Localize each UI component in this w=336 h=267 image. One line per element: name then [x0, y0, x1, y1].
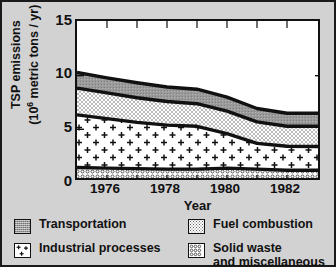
legend-item-transportation: Transportation [14, 218, 127, 234]
y-axis-title: TSP emissions (106 metric tons / yr) [9, 0, 42, 145]
legend-item-solid-waste: Solid wasteand miscellaneous [188, 242, 325, 267]
x-tick-label-1980: 1980 [202, 182, 248, 196]
legend-item-industrial-processes: Industrial processes [14, 242, 161, 258]
stacked-area-svg [75, 19, 320, 180]
x-axis-title: Year [75, 198, 320, 213]
legend-swatch-solid-waste-icon [188, 243, 205, 258]
legend-label-industrial-processes: Industrial processes [39, 242, 161, 256]
chart-plot-area-wrapper: TSP emissions (106 metric tons / yr) 15 … [2, 2, 336, 207]
top-axis-ticks [107, 21, 287, 28]
legend-label-solid-waste-line1: Solid waste [213, 241, 282, 255]
circles-pattern-icon [189, 244, 204, 257]
y-axis-title-exponent: 6 [25, 102, 35, 107]
legend-swatch-fuel-combustion-icon [188, 219, 205, 234]
y-tick-label-10: 10 [46, 65, 72, 80]
legend-item-fuel-combustion: Fuel combustion [188, 218, 313, 234]
chart-plot-canvas [75, 19, 320, 180]
y-axis-title-line2: (106 metric tons / yr) [27, 5, 41, 125]
legend-swatch-industrial-processes-icon [14, 243, 31, 258]
y-tick-label-15: 15 [46, 12, 72, 27]
legend-label-solid-waste: Solid wasteand miscellaneous [213, 242, 325, 267]
chart-legend: Transportation Fuel combustion [10, 218, 330, 264]
legend-label-transportation: Transportation [39, 218, 127, 232]
plus-marks-pattern-icon [15, 244, 30, 257]
legend-row-2: Industrial processes Solid wasteand misc… [10, 242, 330, 263]
y-axis-title-line1: TSP emissions [9, 20, 23, 109]
legend-swatch-transportation-icon [14, 219, 31, 234]
figure-frame: TSP emissions (106 metric tons / yr) 15 … [0, 0, 336, 267]
legend-label-fuel-combustion: Fuel combustion [213, 218, 313, 232]
x-tick-label-1978: 1978 [142, 182, 188, 196]
y-tick-label-0: 0 [46, 173, 72, 188]
y-axis-tick-labels: 15 10 5 0 [42, 2, 72, 207]
x-tick-label-1982: 1982 [262, 182, 308, 196]
legend-label-solid-waste-line2: and miscellaneous [213, 256, 325, 267]
x-tick-label-1976: 1976 [82, 182, 128, 196]
legend-row-1: Transportation Fuel combustion [10, 218, 330, 239]
y-tick-label-5: 5 [46, 119, 72, 134]
